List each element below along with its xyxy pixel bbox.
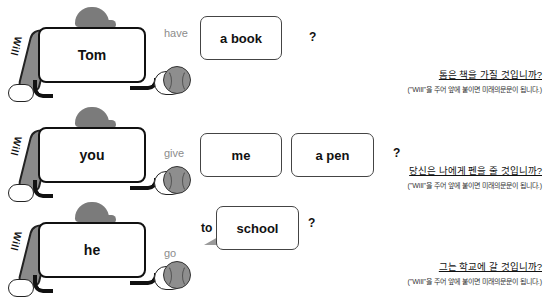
sentence-row-3: Will he go to school ? 그는 학교에 갈 것입니까? ("… — [0, 195, 545, 295]
bat-label: Will — [9, 230, 24, 252]
baseball-icon — [163, 166, 191, 194]
subject-sign: Tom — [38, 27, 146, 83]
mascot: Will Tom have — [0, 0, 200, 100]
korean-translation: 그는 학교에 갈 것입니까? — [439, 259, 542, 273]
subject-sign: you — [38, 127, 146, 183]
mascot: Will you give — [0, 100, 200, 200]
glove-icon — [8, 279, 34, 297]
question-mark: ? — [309, 30, 316, 44]
korean-translation: 당신은 나에게 펜을 줄 것입니까? — [409, 163, 542, 177]
word-box: school — [216, 206, 299, 250]
verb-label: give — [164, 147, 184, 159]
word-box: a book — [200, 16, 282, 60]
korean-translation: 톰은 책을 가질 것입니까? — [439, 67, 542, 81]
question-mark: ? — [308, 216, 315, 230]
sentence-row-2: Will you give me a pen ? 당신은 나에게 펜을 줄 것입… — [0, 100, 545, 200]
word-box: a pen — [291, 133, 374, 177]
bat-label: Will — [9, 135, 24, 157]
question-mark: ? — [393, 146, 400, 160]
grammar-note: ("Will"을 주어 앞에 붙이면 미래의문문이 됩니다.) — [407, 180, 542, 190]
baseball-icon — [163, 261, 191, 289]
mascot: Will he go — [0, 195, 200, 295]
verb-label: have — [164, 27, 188, 39]
grammar-note: ("Will"을 주어 앞에 붙이면 미래의문문이 됩니다.) — [407, 276, 542, 286]
sentence-row-1: Will Tom have a book ? 톰은 책을 가질 것입니까? ("… — [0, 0, 545, 100]
verb-label: go — [164, 247, 176, 259]
preposition: to — [201, 221, 212, 235]
bat-label: Will — [9, 35, 24, 57]
word-box: me — [200, 133, 282, 177]
baseball-icon — [163, 66, 191, 94]
subject-sign: he — [38, 222, 146, 278]
grammar-note: ("Will"을 주어 앞에 붙이면 미래의문문이 됩니다.) — [407, 84, 542, 94]
